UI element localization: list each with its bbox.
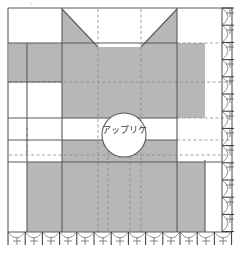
cutout-left-lower <box>9 140 27 232</box>
cutout-top-right <box>177 9 222 43</box>
cutout-right-lower <box>205 162 222 232</box>
region-right-upper-column <box>177 43 205 118</box>
cutout-center-gap <box>9 118 177 140</box>
applique-circle <box>102 113 146 157</box>
pattern-diagram: · <box>0 0 239 253</box>
region-bottom-band <box>27 162 205 232</box>
region-left-shoulder <box>9 43 62 82</box>
cutout-top-center <box>98 9 141 47</box>
region-central-body <box>62 43 177 118</box>
applique-label: アップリケ <box>102 125 147 135</box>
cutout-left-column <box>9 82 62 118</box>
top-tick-mark: · <box>30 0 32 7</box>
pattern-canvas: · <box>0 0 239 253</box>
cutout-top-left <box>9 9 62 43</box>
